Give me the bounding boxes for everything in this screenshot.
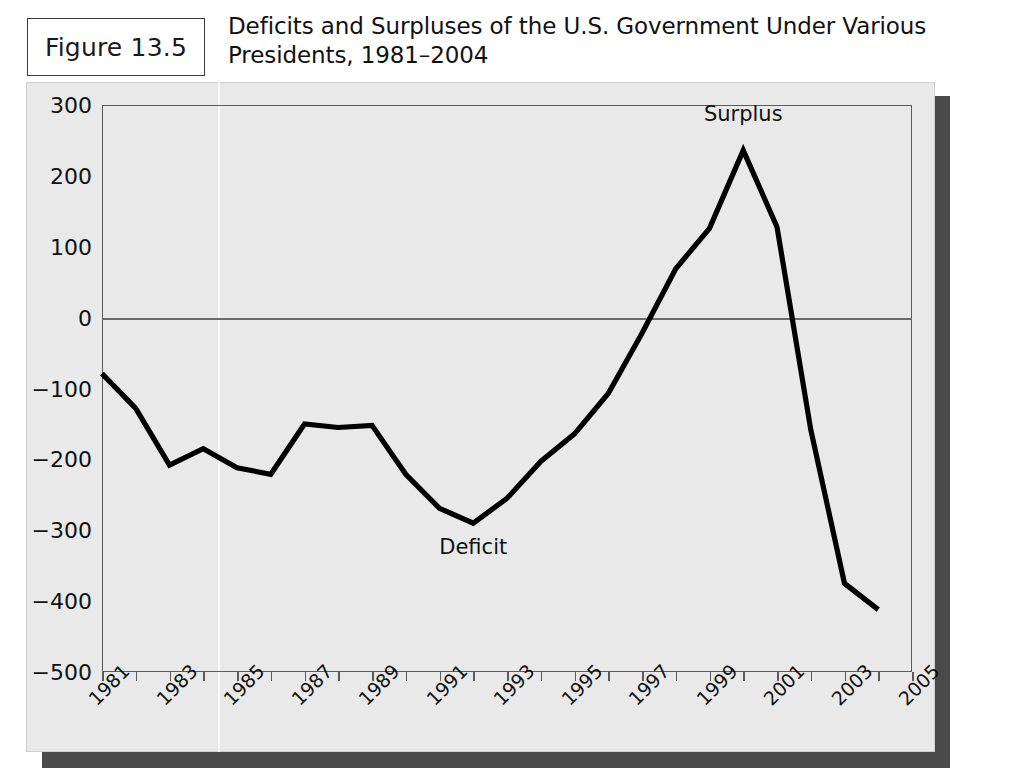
y-tick-label: −300 [6, 518, 92, 543]
annotation-deficit: Deficit [439, 535, 507, 559]
y-tick-label: −200 [6, 447, 92, 472]
y-tick-label: 100 [6, 234, 92, 259]
y-tick-label: 200 [6, 163, 92, 188]
zero-reference-line [102, 318, 912, 320]
y-tick-label: 0 [6, 305, 92, 330]
figure-number-label: Figure 13.5 [45, 33, 187, 62]
figure-root: Figure 13.5 Deficits and Surpluses of th… [0, 0, 1024, 780]
annotation-surplus: Surplus [704, 102, 783, 126]
x-tick-mark [271, 672, 273, 681]
x-tick-mark [473, 672, 475, 681]
x-tick-mark [811, 672, 813, 681]
x-tick-mark [541, 672, 543, 681]
figure-number-badge: Figure 13.5 [27, 18, 205, 76]
x-tick-mark [608, 672, 610, 681]
x-tick-mark [676, 672, 678, 681]
x-tick-mark [136, 672, 138, 681]
x-tick-mark [743, 672, 745, 681]
y-tick-label: −100 [6, 376, 92, 401]
x-tick-mark [406, 672, 408, 681]
y-tick-label: −400 [6, 589, 92, 614]
figure-title: Deficits and Surpluses of the U.S. Gover… [228, 12, 1018, 70]
x-tick-mark [338, 672, 340, 681]
y-tick-label: −500 [6, 660, 92, 685]
y-tick-label: 300 [6, 93, 92, 118]
x-tick-mark [203, 672, 205, 681]
x-tick-mark [878, 672, 880, 681]
plot-frame [102, 105, 912, 672]
